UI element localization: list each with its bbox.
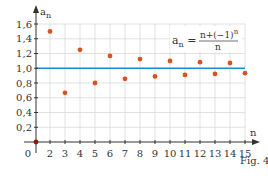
svg-text:1,2: 1,2 <box>16 48 32 59</box>
data-point <box>168 58 173 63</box>
svg-text:9: 9 <box>152 148 158 159</box>
svg-text:6: 6 <box>107 148 113 159</box>
data-point <box>213 72 218 77</box>
svg-text:4: 4 <box>77 148 83 159</box>
svg-text:2: 2 <box>47 148 53 159</box>
data-point <box>153 74 158 79</box>
svg-text:an =: an = <box>172 34 196 49</box>
svg-text:0,4: 0,4 <box>16 107 32 118</box>
svg-text:0: 0 <box>25 148 31 159</box>
svg-text:0,8: 0,8 <box>16 78 32 89</box>
data-point <box>108 54 113 59</box>
svg-text:10: 10 <box>164 148 177 159</box>
data-point <box>34 140 39 145</box>
data-point <box>138 57 143 62</box>
y-axis-label: an <box>40 6 51 20</box>
data-point <box>63 90 68 95</box>
svg-text:14: 14 <box>224 148 237 159</box>
data-point <box>243 71 248 76</box>
data-point <box>183 73 188 78</box>
x-axis-ticks: 023456789101112131415 <box>25 140 252 159</box>
data-point <box>48 29 53 34</box>
svg-text:12: 12 <box>194 148 207 159</box>
x-axis-label: n <box>250 127 257 138</box>
data-point <box>123 76 128 81</box>
data-point <box>78 47 83 52</box>
svg-text:n+(−1)n: n+(−1)n <box>200 28 239 40</box>
data-point <box>228 61 233 66</box>
y-axis-ticks: 0,20,40,60,81,01,21,41,6 <box>16 19 38 133</box>
svg-text:8: 8 <box>137 148 143 159</box>
data-point <box>198 60 203 65</box>
figure-caption: Fig. 4 <box>240 155 268 166</box>
svg-text:0,6: 0,6 <box>16 92 32 103</box>
svg-text:n: n <box>215 42 221 52</box>
sequence-chart: 023456789101112131415 0,20,40,60,81,01,2… <box>0 0 268 179</box>
svg-text:1,6: 1,6 <box>16 19 32 30</box>
svg-text:1,0: 1,0 <box>16 63 32 74</box>
svg-text:7: 7 <box>122 148 128 159</box>
svg-text:5: 5 <box>92 148 98 159</box>
svg-text:11: 11 <box>179 148 192 159</box>
svg-text:3: 3 <box>62 148 68 159</box>
svg-text:0,2: 0,2 <box>16 122 32 133</box>
svg-text:1,4: 1,4 <box>16 33 32 44</box>
data-point <box>93 81 98 86</box>
svg-text:13: 13 <box>209 148 222 159</box>
